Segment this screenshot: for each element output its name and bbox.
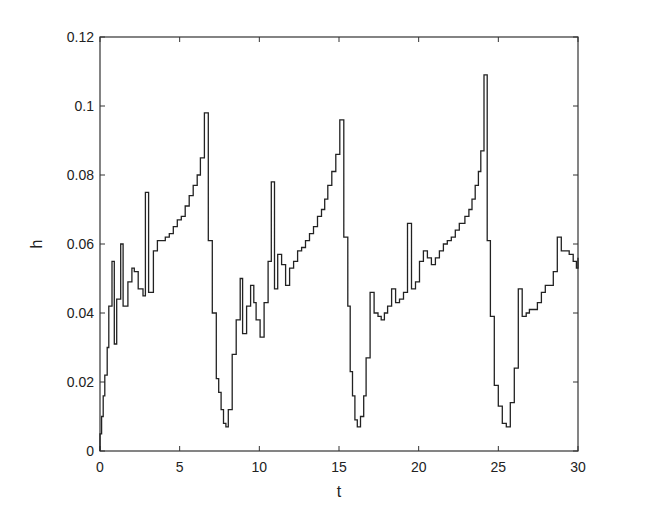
- y-tick-label: 0.02: [67, 374, 94, 390]
- x-tick-label: 30: [570, 459, 586, 475]
- y-tick-label: 0.04: [67, 305, 94, 321]
- x-tick-label: 0: [96, 459, 104, 475]
- y-axis-label: h: [28, 240, 45, 249]
- plot-area: [100, 37, 578, 451]
- x-tick-label: 20: [411, 459, 427, 475]
- x-tick-label: 15: [331, 459, 347, 475]
- x-tick-label: 25: [491, 459, 507, 475]
- x-tick-label: 5: [176, 459, 184, 475]
- y-tick-label: 0.12: [67, 29, 94, 45]
- x-tick-label: 10: [252, 459, 268, 475]
- y-tick-label: 0: [86, 443, 94, 459]
- x-axis-label: t: [337, 483, 342, 500]
- line-chart: 00.020.040.060.080.10.12 051015202530 t …: [0, 0, 654, 526]
- y-tick-label: 0.08: [67, 167, 94, 183]
- y-tick-label: 0.06: [67, 236, 94, 252]
- y-tick-label: 0.1: [75, 98, 95, 114]
